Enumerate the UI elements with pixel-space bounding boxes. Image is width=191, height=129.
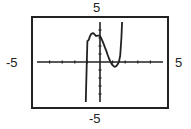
graph-canvas [0, 0, 191, 129]
